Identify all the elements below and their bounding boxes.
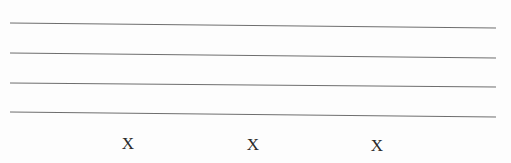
ruled-line-4	[10, 112, 496, 117]
document-page: X X X	[0, 0, 511, 163]
ruled-line-3	[10, 83, 496, 87]
x-mark-1: X	[122, 135, 134, 152]
x-mark-2: X	[247, 136, 259, 153]
ruled-line-2	[10, 53, 496, 58]
ruled-line-1	[10, 23, 496, 28]
x-mark-3: X	[371, 137, 383, 154]
